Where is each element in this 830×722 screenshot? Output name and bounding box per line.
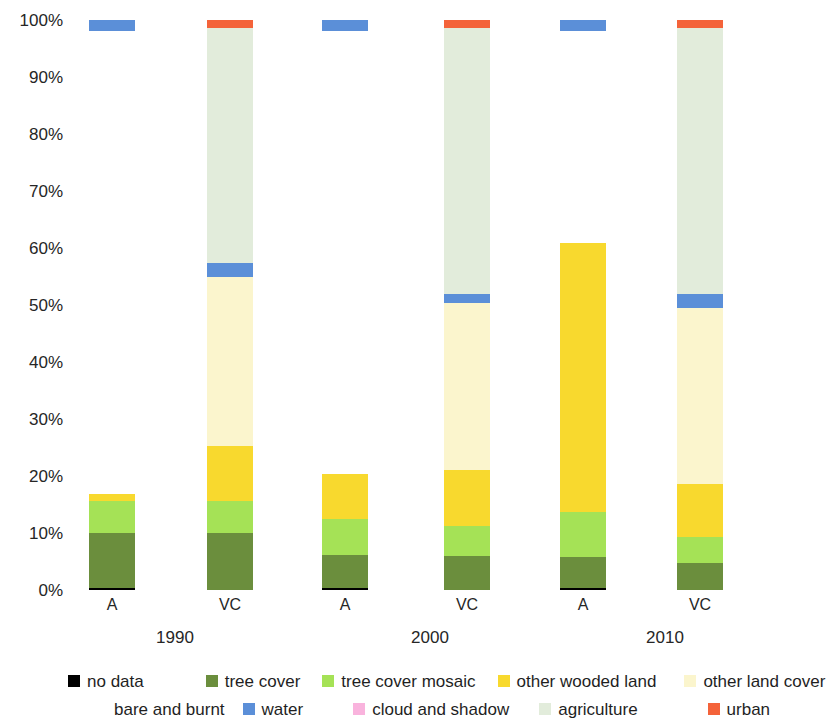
bar-segment-other-wooded-land[interactable] [207, 446, 253, 501]
x-axis-category-label: A [315, 596, 375, 614]
bar-stack[interactable] [677, 20, 723, 590]
legend-item-label: bare and burnt [114, 700, 225, 719]
y-axis-tick-label: 70% [3, 183, 63, 200]
bar-segment-tree-cover[interactable] [444, 556, 490, 590]
x-axis-category-label: VC [670, 596, 730, 614]
chart-legend: no datatree covertree cover mosaicother … [0, 668, 794, 722]
bar-segment-urban[interactable] [207, 20, 253, 28]
y-axis-tick-label: 40% [3, 354, 63, 371]
y-axis-tick-label: 30% [3, 411, 63, 428]
bar-segment-urban[interactable] [444, 20, 490, 28]
legend-item-label: no data [87, 672, 144, 691]
legend-item-label: tree cover [225, 672, 301, 691]
legend-swatch-icon [353, 703, 365, 715]
bar-stack[interactable] [560, 20, 606, 590]
legend-swatch-icon [708, 703, 720, 715]
legend-item-label: water [262, 700, 304, 719]
bar-segment-other-wooded-land[interactable] [677, 484, 723, 537]
legend-row-2: bare and burntwatercloud and shadowagric… [0, 696, 830, 722]
legend-item[interactable]: tree cover [206, 672, 301, 691]
legend-item[interactable]: cloud and shadow [353, 700, 509, 719]
bar-stack[interactable] [207, 20, 253, 590]
bar-segment-agriculture[interactable] [444, 28, 490, 294]
bar-segment-tree-cover[interactable] [89, 533, 135, 588]
bar-segment-other-land-cover[interactable] [444, 303, 490, 469]
bar-segment-water[interactable] [207, 263, 253, 277]
y-axis-tick-label: 20% [3, 468, 63, 485]
bar-segment-tree-cover-mosaic[interactable] [89, 501, 135, 533]
y-axis-tick-label: 60% [3, 240, 63, 257]
legend-item[interactable]: bare and burnt [95, 700, 225, 719]
y-axis-tick-label: 100% [3, 12, 63, 29]
bar-segment-no-data[interactable] [560, 588, 606, 590]
legend-swatch-icon [684, 675, 696, 687]
legend-swatch-icon [206, 675, 218, 687]
bar-segment-tree-cover-mosaic[interactable] [677, 537, 723, 563]
bar-segment-tree-cover[interactable] [207, 533, 253, 590]
bar-segment-tree-cover[interactable] [322, 555, 368, 587]
legend-swatch-icon [539, 703, 551, 715]
legend-item-label: cloud and shadow [372, 700, 509, 719]
legend-item-label: agriculture [558, 700, 637, 719]
x-axis-category-label: VC [200, 596, 260, 614]
bar-segment-agriculture[interactable] [207, 28, 253, 263]
bar-stack[interactable] [322, 20, 368, 590]
bar-segment-no-data[interactable] [322, 588, 368, 590]
legend-item[interactable]: other wooded land [498, 672, 657, 691]
legend-item-label: other land cover [703, 672, 825, 691]
legend-item[interactable]: other land cover [684, 672, 825, 691]
x-axis-category-label: A [82, 596, 142, 614]
bar-segment-tree-cover-mosaic[interactable] [560, 512, 606, 557]
y-axis-tick-label: 0% [3, 582, 63, 599]
bar-segment-tree-cover-mosaic[interactable] [322, 519, 368, 555]
legend-item-label: tree cover mosaic [341, 672, 475, 691]
plot-area [75, 20, 775, 590]
bar-stack[interactable] [89, 20, 135, 590]
legend-swatch-icon [243, 703, 255, 715]
legend-swatch-icon [68, 675, 80, 687]
bar-segment-no-data[interactable] [89, 588, 135, 590]
legend-swatch-icon [95, 703, 107, 715]
legend-item[interactable]: tree cover mosaic [322, 672, 475, 691]
legend-item[interactable]: urban [708, 700, 770, 719]
y-axis-tick-label: 80% [3, 126, 63, 143]
legend-swatch-icon [498, 675, 510, 687]
bar-segment-tree-cover[interactable] [677, 563, 723, 590]
bar-segment-water[interactable] [560, 20, 606, 31]
legend-item-label: urban [727, 700, 770, 719]
legend-item[interactable]: no data [68, 672, 144, 691]
bar-stack[interactable] [444, 20, 490, 590]
bar-segment-tree-cover-mosaic[interactable] [444, 526, 490, 556]
bar-segment-water[interactable] [444, 294, 490, 304]
bar-segment-water[interactable] [677, 294, 723, 309]
bar-segment-other-wooded-land[interactable] [89, 494, 135, 501]
x-axis-group-label: 1990 [135, 628, 215, 647]
bar-segment-other-land-cover[interactable] [677, 308, 723, 484]
legend-item[interactable]: agriculture [539, 700, 637, 719]
bar-segment-tree-cover-mosaic[interactable] [207, 501, 253, 533]
bar-segment-other-wooded-land[interactable] [444, 470, 490, 526]
bar-segment-water[interactable] [89, 20, 135, 31]
x-axis-group-label: 2000 [390, 628, 470, 647]
bar-segment-tree-cover[interactable] [560, 557, 606, 588]
y-axis-tick-label: 10% [3, 525, 63, 542]
x-axis-category-label: VC [437, 596, 497, 614]
y-axis-tick-label: 90% [3, 69, 63, 86]
y-axis: 0%10%20%30%40%50%60%70%80%90%100% [0, 0, 75, 600]
legend-swatch-icon [322, 675, 334, 687]
x-axis-category-label: A [553, 596, 613, 614]
bar-segment-urban[interactable] [677, 20, 723, 28]
legend-row-1: no datatree covertree cover mosaicother … [0, 668, 830, 694]
x-axis-group-label: 2010 [625, 628, 705, 647]
bar-segment-other-land-cover[interactable] [207, 277, 253, 446]
bar-segment-agriculture[interactable] [677, 28, 723, 294]
bar-segment-other-wooded-land[interactable] [322, 474, 368, 519]
bar-segment-water[interactable] [322, 20, 368, 31]
legend-item-label: other wooded land [517, 672, 657, 691]
legend-item[interactable]: water [243, 700, 304, 719]
bar-segment-other-wooded-land[interactable] [560, 243, 606, 512]
y-axis-tick-label: 50% [3, 297, 63, 314]
